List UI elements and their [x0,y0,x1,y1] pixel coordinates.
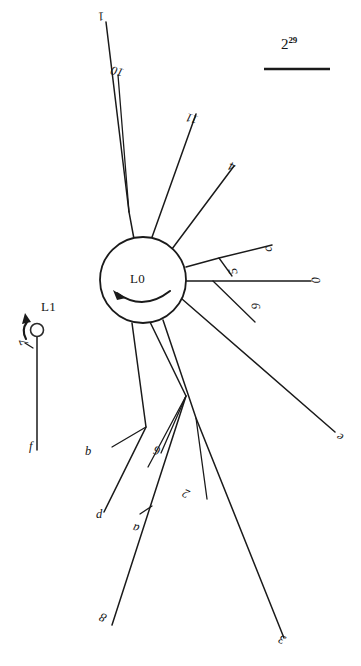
edge-line-3 [163,320,284,638]
edge-label-0-end: 0 [310,276,323,284]
edge-branch-10 [118,75,129,212]
edge-label-f-end: f [29,440,32,453]
edge-line-1 [106,22,134,239]
diagram-svg [0,0,361,666]
scale-legend: 229 [281,35,297,53]
diagram-canvas: L0 L1 229 1 10 11 4 c 5 0 9 e 3 2 8 a d … [0,0,361,666]
edge-line-11 [151,114,196,240]
edge-branch-a-tick [140,506,152,514]
edge-line-d [104,323,146,512]
edge-label-b: b [85,445,91,458]
node-l1-spin-arc [24,322,27,339]
edge-line-4 [169,166,234,253]
node-label-l1: L1 [41,300,56,313]
edge-label-d-end: d [96,508,102,521]
node-label-l0: L0 [130,272,145,285]
scale-exponent: 29 [289,35,298,45]
edge-line-6 [161,396,186,453]
edge-branch-9 [213,281,255,322]
node-l1-spin-arrowhead [22,313,31,324]
node-l1-circle[interactable] [31,324,44,337]
edge-line-c [186,245,272,267]
scale-base: 2 [281,36,289,52]
edge-line-e [182,299,335,432]
